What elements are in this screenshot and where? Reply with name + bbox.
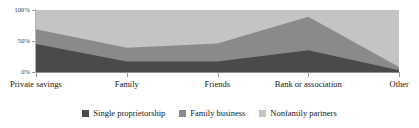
- legend-item-label: Family business: [190, 109, 245, 118]
- chart-legend: Single proprietorshipFamily businessNonf…: [0, 109, 419, 118]
- legend-square-swatch: [82, 110, 89, 117]
- legend-square-swatch: [179, 110, 186, 117]
- plot-area: [36, 10, 399, 72]
- y-tick-label: 50%: [18, 38, 30, 45]
- x-tick-mark: [399, 72, 400, 77]
- x-tick-label: Private savings: [10, 80, 62, 89]
- x-tick-mark: [36, 72, 37, 77]
- x-tick-label: Other: [390, 80, 409, 89]
- y-axis: 100%50%0%: [0, 0, 33, 82]
- legend-item[interactable]: Single proprietorship: [82, 109, 165, 118]
- x-tick-label: Friends: [205, 80, 231, 89]
- legend-item[interactable]: Nonfamily partners: [259, 109, 336, 118]
- legend-square-swatch: [259, 110, 266, 117]
- x-tick-label: Bank or association: [275, 80, 342, 89]
- y-tick-label: 0%: [21, 69, 30, 76]
- legend-item-label: Nonfamily partners: [270, 109, 336, 118]
- legend-item-label: Single proprietorship: [93, 109, 165, 118]
- stacked-area-chart: 100%50%0% Private savingsFamilyFriendsBa…: [0, 0, 419, 128]
- y-tick-label: 100%: [14, 7, 30, 14]
- x-tick-mark: [308, 72, 309, 77]
- legend-item[interactable]: Family business: [179, 109, 245, 118]
- x-tick-mark: [127, 72, 128, 77]
- x-tick-label: Family: [115, 80, 139, 89]
- x-tick-mark: [218, 72, 219, 77]
- area-series-svg: [36, 10, 399, 72]
